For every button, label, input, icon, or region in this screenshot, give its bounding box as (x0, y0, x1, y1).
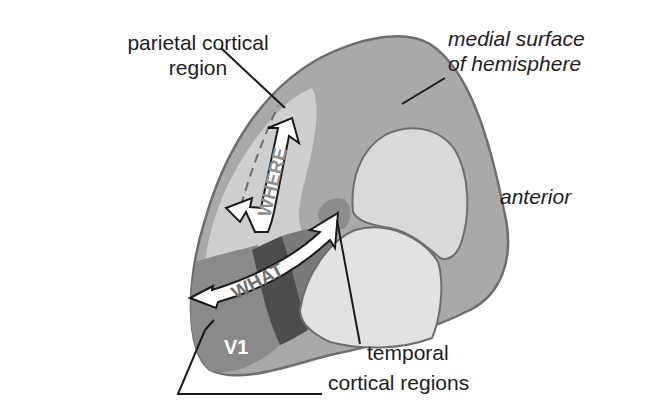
dorsal-ventral-stream-diagram: WHERE WHAT V1 parietal cortical region m… (0, 0, 648, 416)
temporal-label-line1: temporal (367, 340, 449, 365)
parietal-label-line2: region (88, 55, 308, 80)
anterior-label: anterior (500, 184, 571, 209)
medial-surface-label: medial surface of hemisphere (448, 26, 585, 76)
v1-label: V1 (224, 336, 248, 358)
temporal-label-line2: cortical regions (328, 370, 469, 395)
medial-label-line1: medial surface (448, 26, 585, 51)
medial-label-line2: of hemisphere (448, 51, 585, 76)
parietal-label: parietal cortical region (88, 30, 308, 80)
parietal-label-line1: parietal cortical (88, 30, 308, 55)
